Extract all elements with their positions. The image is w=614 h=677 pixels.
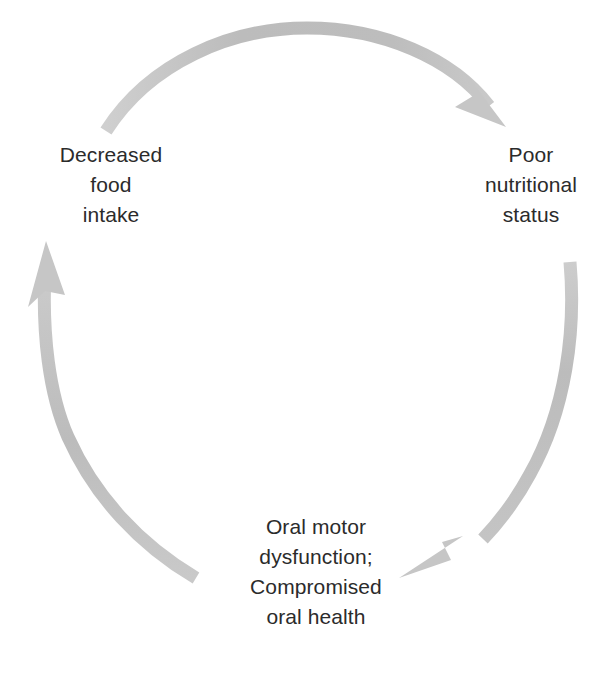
node-label-line: nutritional [448,170,614,200]
node-label-line: Compromised [212,572,420,602]
arrow-right [399,262,572,578]
node-decreased-food-intake: Decreased food intake [0,140,222,230]
node-label-line: food [0,170,222,200]
arrow-top [106,28,506,131]
node-label-line: Decreased [0,140,222,170]
arrow-left [28,241,196,578]
arrow-left-shaft [44,272,196,578]
arrow-right-shaft [483,262,572,539]
node-label-line: oral health [212,602,420,632]
arrow-top-shaft [106,28,489,131]
node-label-line: Poor [448,140,614,170]
node-poor-nutritional-status: Poor nutritional status [448,140,614,230]
node-oral-motor-dysfunction: Oral motor dysfunction; Compromised oral… [212,512,420,632]
node-label-line: status [448,200,614,230]
node-label-line: Oral motor [212,512,420,542]
node-label-line: dysfunction; [212,542,420,572]
node-label-line: intake [0,200,222,230]
cycle-diagram: Decreased food intake Poor nutritional s… [0,0,614,677]
